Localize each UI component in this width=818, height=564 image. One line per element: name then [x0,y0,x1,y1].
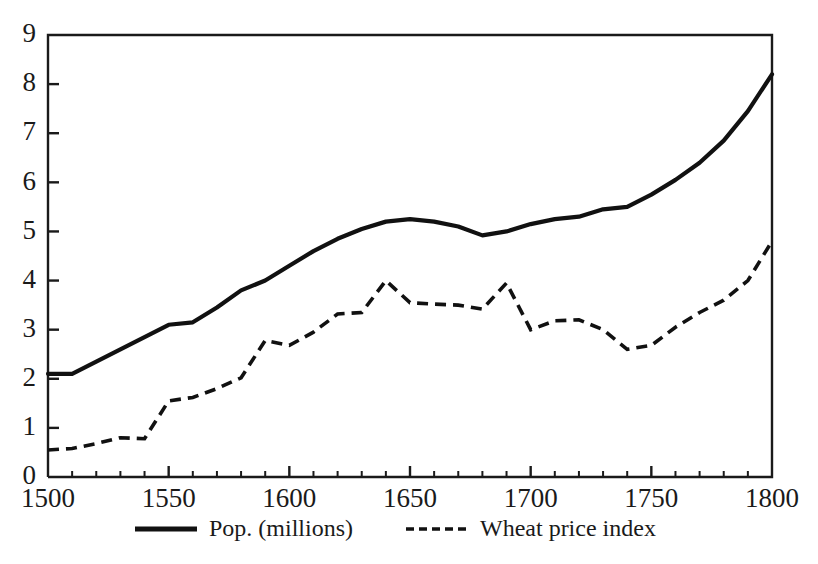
y-tick-label: 9 [23,18,37,48]
x-tick-label: 1600 [262,483,316,513]
x-tick-label: 1750 [624,483,678,513]
y-tick-label: 7 [23,116,37,146]
x-tick-label: 1700 [504,483,558,513]
series-line-solid [48,74,772,374]
y-tick-label: 2 [23,362,37,392]
data-series-group [48,74,772,450]
chart-figure: 0123456789 1500155016001650170017501800 … [0,0,818,564]
line-chart: 0123456789 1500155016001650170017501800 … [0,0,818,564]
chart-legend: Pop. (millions)Wheat price index [135,515,656,541]
plot-border [48,35,772,477]
y-tick-label: 8 [23,67,37,97]
x-tick-label: 1500 [21,483,75,513]
x-axis-ticks: 1500155016001650170017501800 [21,466,799,513]
y-tick-label: 4 [23,264,37,294]
y-tick-label: 6 [23,166,37,196]
legend-label: Pop. (millions) [209,515,353,541]
y-tick-label: 5 [23,215,37,245]
y-tick-label: 1 [23,411,37,441]
x-tick-label: 1800 [745,483,799,513]
y-tick-label: 3 [23,313,37,343]
series-line-dashed [48,241,772,450]
y-axis-ticks: 0123456789 [23,18,60,490]
axis-frame [48,35,772,477]
x-tick-label: 1550 [142,483,196,513]
x-tick-label: 1650 [383,483,437,513]
legend-label: Wheat price index [480,515,656,541]
